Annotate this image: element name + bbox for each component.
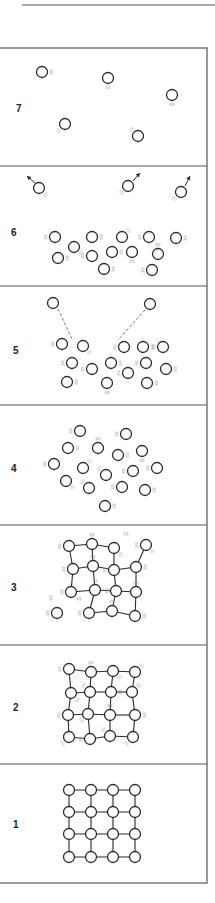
- molecule-circle-icon: [69, 242, 80, 253]
- vibration-marks-icon: [81, 367, 85, 371]
- molecule-circle-icon: [108, 785, 119, 796]
- vibration-marks-icon: [43, 462, 47, 466]
- vibration-marks-icon: [172, 196, 177, 201]
- vibration-marks-icon: [135, 543, 139, 547]
- molecule-circle-icon: [64, 829, 75, 840]
- vibration-marks-icon: [112, 267, 116, 271]
- vibration-marks-icon: [113, 345, 117, 349]
- molecule-circle-icon: [85, 687, 96, 698]
- panel-5-liquid-with-escaping-molecules: 5: [0, 286, 207, 394]
- molecule-circle-icon: [34, 183, 45, 194]
- molecule-circle-icon: [141, 540, 152, 551]
- molecule-circle-icon: [78, 341, 89, 352]
- vibration-marks-icon: [77, 597, 81, 601]
- vibration-marks-icon: [69, 429, 73, 433]
- vibration-marks-icon: [117, 675, 122, 680]
- molecule-circle-icon: [66, 587, 77, 598]
- molecule-circle-icon: [67, 358, 78, 369]
- molecule-circle-icon: [130, 667, 141, 678]
- vibration-marks-icon: [90, 533, 94, 537]
- vibration-marks-icon: [143, 713, 147, 717]
- molecule-circle-icon: [75, 426, 86, 437]
- molecule-circle-icon: [83, 709, 94, 720]
- molecule-circle-icon: [121, 429, 132, 440]
- vibration-marks-icon: [115, 432, 119, 436]
- molecule-circle-icon: [102, 378, 113, 389]
- vibration-marks-icon: [108, 704, 112, 708]
- vibration-marks-icon: [89, 661, 93, 665]
- trajectory-dashed-line: [118, 310, 145, 340]
- vibration-marks-icon: [75, 380, 79, 384]
- vibration-marks-icon: [117, 371, 121, 375]
- vibration-marks-icon: [58, 667, 62, 671]
- molecule-circle-icon: [140, 485, 151, 496]
- vibration-marks-icon: [134, 581, 138, 585]
- vibration-marks-icon: [87, 350, 92, 355]
- molecule-circle-icon: [50, 232, 61, 243]
- vibration-marks-icon: [156, 243, 160, 247]
- molecule-circle-icon: [62, 377, 73, 388]
- molecule-circle-icon: [137, 446, 148, 457]
- molecule-circle-icon: [113, 450, 124, 461]
- vibration-marks-icon: [81, 683, 86, 688]
- panel-1-solid: 1: [0, 764, 207, 863]
- vibration-marks-icon: [136, 683, 141, 688]
- vibration-marks-icon: [66, 256, 70, 260]
- vibration-marks-icon: [143, 614, 147, 618]
- molecule-circle-icon: [123, 181, 134, 192]
- molecule-circle-icon: [63, 443, 74, 454]
- vibration-marks-icon: [91, 555, 95, 559]
- molecule-circle-icon: [63, 710, 74, 721]
- molecule-circle-icon: [60, 119, 71, 130]
- molecule-circle-icon: [176, 187, 187, 198]
- molecule-circle-icon: [144, 232, 155, 243]
- vibration-marks-icon: [120, 250, 124, 254]
- molecule-circle-icon: [99, 264, 110, 275]
- vibration-marks-icon: [87, 459, 92, 464]
- molecule-circle-icon: [130, 785, 141, 796]
- vibration-marks-icon: [155, 381, 159, 385]
- molecule-circle-icon: [167, 90, 178, 101]
- vibration-marks-icon: [78, 611, 82, 615]
- molecule-circle-icon: [131, 587, 142, 598]
- molecule-circle-icon: [142, 378, 153, 389]
- vibration-marks-icon: [141, 268, 145, 272]
- molecule-circle-icon: [52, 608, 63, 619]
- molecule-circle-icon: [48, 298, 59, 309]
- panel-number-label: 4: [11, 463, 17, 474]
- molecule-circle-icon: [78, 463, 89, 474]
- vibration-marks-icon: [135, 361, 139, 365]
- vibration-marks-icon: [113, 504, 117, 508]
- trajectory-dashed-line: [58, 309, 72, 339]
- panel-2-heated-solid: 2: [0, 645, 207, 746]
- vibration-marks-icon: [111, 485, 115, 489]
- molecule-circle-icon: [171, 233, 182, 244]
- molecule-circle-icon: [84, 483, 95, 494]
- molecule-circle-icon: [133, 131, 144, 142]
- molecule-circle-icon: [119, 342, 130, 353]
- vibration-marks-icon: [138, 235, 142, 239]
- molecule-circle-icon: [86, 785, 97, 796]
- panel-6-evaporation: 6: [0, 166, 207, 276]
- molecule-circle-icon: [106, 687, 117, 698]
- vibration-marks-icon: [130, 260, 134, 264]
- molecule-circle-icon: [101, 470, 112, 481]
- vibration-marks-icon: [140, 459, 144, 463]
- molecule-circle-icon: [131, 562, 142, 573]
- escape-arrow-icon: [133, 173, 140, 181]
- vibration-marks-icon: [124, 532, 128, 536]
- vibration-marks-icon: [57, 713, 61, 717]
- molecule-circle-icon: [158, 342, 169, 353]
- molecule-circle-icon: [87, 251, 98, 262]
- molecule-circle-icon: [138, 342, 149, 353]
- vibration-marks-icon: [119, 361, 123, 365]
- panel-number-label: 2: [13, 702, 19, 713]
- vibration-marks-icon: [78, 251, 83, 256]
- vibration-marks-icon: [122, 469, 126, 473]
- molecule-circle-icon: [86, 829, 97, 840]
- escape-arrow-icon: [27, 176, 35, 183]
- molecule-circle-icon: [127, 247, 138, 258]
- molecule-circle-icon: [130, 829, 141, 840]
- molecule-circle-icon: [64, 852, 75, 863]
- vibration-marks-icon: [96, 437, 100, 441]
